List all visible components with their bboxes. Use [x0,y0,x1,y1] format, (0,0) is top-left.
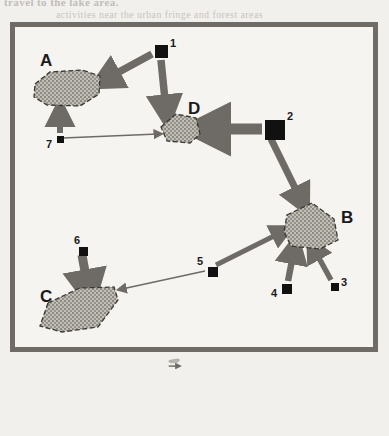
city-label-6: 6 [74,235,80,246]
park-B [284,203,338,249]
park-D [161,114,200,143]
city-marker-1 [155,45,168,58]
legend: Park Cities of varying size Volume of re… [0,356,389,436]
city-marker-4 [282,284,292,294]
flow-arrow-4-to-B [288,250,294,281]
flow-arrow-1-to-D [161,60,166,110]
recreation-visits-figure: A D B C 1 2 3 4 5 6 7 [0,0,389,436]
park-label-A: A [40,52,52,69]
flow-arrow-2-to-B [271,139,301,200]
city-label-5: 5 [197,256,203,267]
city-label-2: 2 [287,111,293,122]
park-label-C: C [40,288,52,305]
city-marker-6 [79,247,88,256]
city-marker-2 [265,120,285,140]
city-label-1: 1 [170,38,176,49]
flow-arrow-6-to-C [82,255,88,288]
city-marker-7 [57,136,64,143]
flow-arrow-1-to-A [106,54,152,79]
city-marker-5 [208,267,218,277]
legend-graphics [0,356,389,436]
legend-park-swatch [169,359,180,363]
city-label-3: 3 [341,277,347,288]
city-label-4: 4 [271,288,277,299]
park-label-B: B [341,209,353,226]
city-label-7: 7 [46,139,52,150]
flow-arrow-3-to-B [314,249,331,280]
flow-arrow-7-to-D [63,134,158,138]
city-marker-3 [331,283,339,291]
park-A [34,70,100,106]
flow-arrow-5-to-C [122,271,205,289]
flow-arrow-5-to-B [216,232,282,265]
park-label-D: D [188,100,200,117]
